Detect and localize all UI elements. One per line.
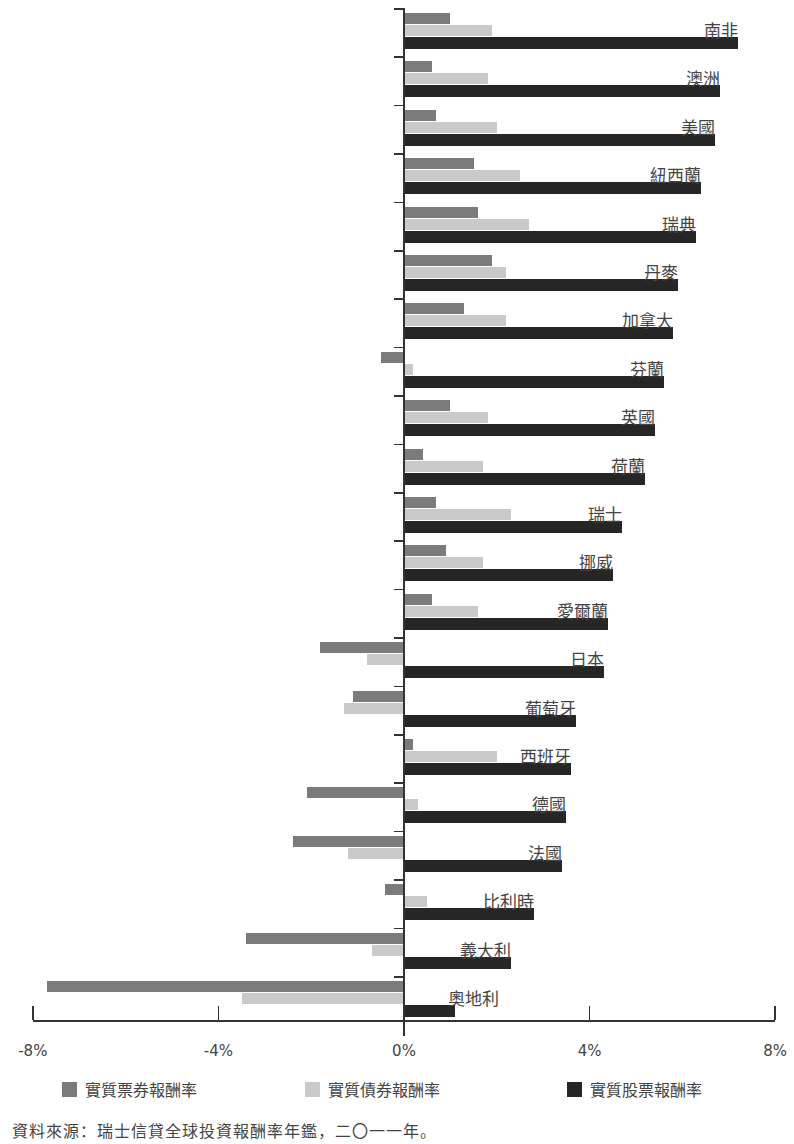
bar-bill	[404, 739, 413, 750]
bar-bond	[404, 170, 520, 181]
bar-bond	[404, 606, 478, 617]
bar-bill	[404, 207, 478, 218]
x-tick-label: -4%	[204, 1042, 233, 1060]
bar-equity	[404, 85, 720, 97]
bar-bond	[404, 896, 427, 907]
bar-bond	[372, 945, 404, 956]
bar-bond	[404, 364, 413, 375]
bar-bill	[404, 594, 432, 605]
country-label: 瑞士	[588, 501, 622, 526]
bar-bill	[404, 449, 423, 460]
bar-bond	[404, 461, 483, 472]
x-tick	[218, 1006, 220, 1020]
country-label: 南非	[704, 17, 738, 42]
legend-item-bond: 實質債券報酬率	[305, 1077, 440, 1101]
country-label: 美國	[681, 114, 715, 139]
bar-bill	[404, 497, 436, 508]
bar-equity	[404, 279, 678, 291]
bar-bond	[404, 509, 511, 520]
bar-bond	[367, 654, 404, 665]
x-tick-label: 4%	[578, 1042, 602, 1060]
legend-swatch-equity	[567, 1082, 582, 1097]
country-label: 奧地利	[448, 985, 499, 1010]
bar-equity	[404, 424, 655, 436]
bar-bond	[348, 848, 404, 859]
country-label: 瑞典	[662, 211, 696, 236]
bar-bill	[320, 642, 404, 653]
bar-bill	[404, 545, 446, 556]
bar-bill	[293, 836, 404, 847]
country-label: 葡萄牙	[525, 695, 576, 720]
bar-equity	[404, 473, 645, 485]
bar-bill	[307, 787, 404, 798]
bar-bill	[404, 400, 450, 411]
country-label: 愛爾蘭	[557, 598, 608, 623]
x-tick-label: 8%	[763, 1042, 787, 1060]
returns-bar-chart: 南非澳洲美國紐西蘭瑞典丹麥加拿大芬蘭英國荷蘭瑞士挪威愛爾蘭日本葡萄牙西班牙德國法…	[0, 0, 794, 1144]
country-label: 荷蘭	[611, 453, 645, 478]
bar-equity	[404, 37, 738, 49]
bar-bill	[385, 884, 404, 895]
legend-label-equity: 實質股票報酬率	[590, 1077, 702, 1101]
country-label: 義大利	[460, 937, 511, 962]
country-label: 芬蘭	[630, 356, 664, 381]
bar-bill	[404, 61, 432, 72]
country-label: 德國	[532, 791, 566, 816]
country-label: 澳洲	[686, 65, 720, 90]
x-tick	[774, 1006, 776, 1020]
country-label: 日本	[570, 646, 604, 671]
bar-equity	[404, 376, 664, 388]
bar-bond	[404, 25, 492, 36]
bar-bill	[404, 158, 474, 169]
country-label: 西班牙	[520, 743, 571, 768]
x-tick	[589, 1006, 591, 1020]
bar-bond	[404, 557, 483, 568]
bar-equity	[404, 134, 715, 146]
bar-bond	[344, 703, 404, 714]
legend-label-bill: 實質票券報酬率	[85, 1077, 197, 1101]
country-label: 法國	[528, 840, 562, 865]
bar-bill	[353, 691, 404, 702]
bar-bill	[246, 933, 404, 944]
bar-equity	[404, 231, 696, 243]
country-label: 英國	[621, 404, 655, 429]
bar-bill	[381, 352, 404, 363]
x-tick	[403, 1006, 405, 1020]
bar-bond	[242, 993, 404, 1004]
bar-bill	[404, 255, 492, 266]
x-tick-label: 0%	[392, 1042, 416, 1060]
bar-bill	[404, 110, 436, 121]
x-tick-label: -8%	[18, 1042, 47, 1060]
country-label: 比利時	[483, 888, 534, 913]
bar-bill	[404, 13, 450, 24]
bar-bill	[404, 303, 464, 314]
country-label: 紐西蘭	[650, 162, 701, 187]
legend-item-equity: 實質股票報酬率	[567, 1077, 702, 1101]
bar-bond	[404, 315, 506, 326]
bar-bond	[404, 122, 497, 133]
bar-bond	[404, 73, 488, 84]
bar-bond	[404, 751, 497, 762]
bar-bond	[404, 412, 488, 423]
x-axis-line	[33, 1020, 775, 1022]
country-label: 丹麥	[644, 259, 678, 284]
bar-bond	[404, 799, 418, 810]
country-label: 加拿大	[622, 307, 673, 332]
legend-swatch-bill	[62, 1082, 77, 1097]
legend: 實質票券報酬率 實質債券報酬率 實質股票報酬率	[0, 1077, 794, 1103]
bar-bill	[47, 981, 404, 992]
legend-swatch-bond	[305, 1082, 320, 1097]
x-tick	[32, 1006, 34, 1020]
legend-label-bond: 實質債券報酬率	[328, 1077, 440, 1101]
country-label: 挪威	[579, 549, 613, 574]
source-note: 資料來源：瑞士信貸全球投資報酬率年鑑，二〇一一年。	[12, 1118, 437, 1142]
y-axis-line	[403, 8, 405, 1036]
bar-bond	[404, 267, 506, 278]
bar-bond	[404, 219, 529, 230]
legend-item-bill: 實質票券報酬率	[62, 1077, 197, 1101]
